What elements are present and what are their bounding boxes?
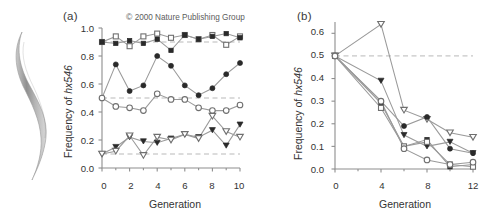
datapoint-open-circle (401, 146, 407, 152)
series-line-open-triangle (335, 24, 473, 137)
panel-b-plot (0, 0, 497, 221)
series-line-filled-triangle (335, 56, 473, 153)
datapoint-filled-triangle (401, 132, 407, 137)
datapoint-filled-circle (448, 146, 453, 151)
series-line-filled-circle (335, 56, 473, 153)
datapoint-open-circle (378, 98, 384, 104)
datapoint-filled-circle (471, 151, 476, 156)
datapoint-open-square (379, 105, 384, 110)
datapoint-filled-circle (425, 114, 430, 119)
datapoint-filled-circle (402, 124, 407, 129)
datapoint-open-circle (332, 53, 338, 59)
datapoint-open-triangle (401, 107, 408, 113)
datapoint-filled-triangle (378, 78, 384, 83)
datapoint-open-circle (470, 159, 476, 165)
figure-root: © 2000 Nature Publishing Group (a) Frequ… (0, 0, 497, 221)
datapoint-open-square (425, 139, 430, 144)
datapoint-open-circle (424, 157, 430, 163)
datapoint-open-circle (447, 162, 453, 168)
